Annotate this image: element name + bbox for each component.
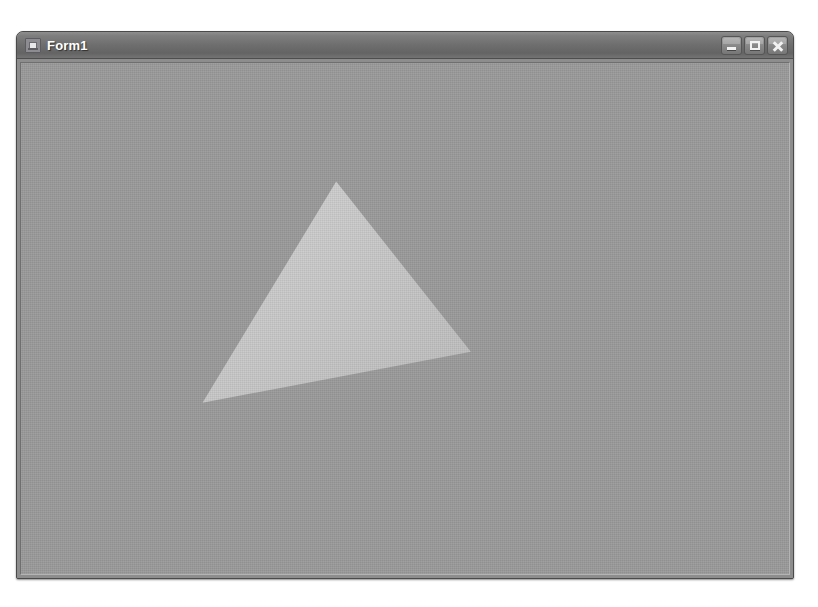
- window-title: Form1: [47, 38, 88, 53]
- minimize-icon: [727, 47, 736, 50]
- maximize-icon: [750, 41, 760, 50]
- screenshot-root: Form1: [0, 0, 818, 607]
- maximize-button[interactable]: [744, 36, 765, 55]
- form-window-icon-bar: [28, 48, 38, 50]
- window-titlebar[interactable]: Form1: [17, 32, 793, 59]
- shaded-triangle: [203, 182, 471, 403]
- form-window-icon: [25, 38, 41, 53]
- client-area-frame: [17, 59, 793, 578]
- client-area[interactable]: [20, 62, 790, 575]
- caption-button-group: [719, 36, 788, 55]
- close-icon: [768, 37, 787, 54]
- application-window[interactable]: Form1: [16, 31, 794, 579]
- minimize-button[interactable]: [721, 36, 742, 55]
- close-button[interactable]: [767, 36, 788, 55]
- triangle-canvas: [21, 63, 789, 574]
- render-surface[interactable]: [21, 63, 789, 574]
